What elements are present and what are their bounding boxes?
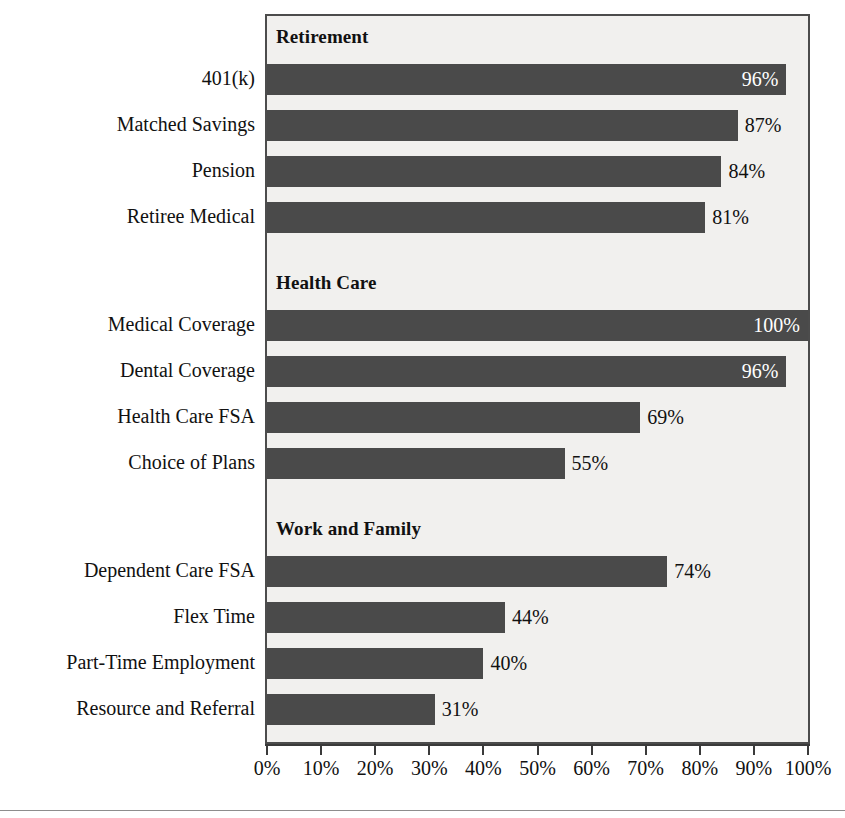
bar: 74% [267, 556, 667, 587]
bar: 55% [267, 448, 565, 479]
bar-value-label: 81% [712, 202, 749, 233]
bar-row: 74% [267, 556, 808, 587]
x-tick [807, 744, 809, 755]
bar-row: 31% [267, 694, 808, 725]
bar-row: 84% [267, 156, 808, 187]
x-tick [753, 744, 755, 755]
bar: 31% [267, 694, 435, 725]
bar: 96% [267, 356, 786, 387]
x-tick-label: 100% [768, 757, 845, 780]
bar-value-label: 96% [742, 356, 779, 387]
chart-figure: Retirement96%87%84%81%Health Care100%96%… [0, 0, 845, 818]
bar-row: 44% [267, 602, 808, 633]
x-tick [266, 744, 268, 755]
bar: 40% [267, 648, 483, 679]
x-tick [320, 744, 322, 755]
bar-row: 96% [267, 356, 808, 387]
x-tick [645, 744, 647, 755]
bar-row: 81% [267, 202, 808, 233]
group-header: Retirement [267, 20, 808, 54]
category-label: Flex Time [0, 601, 255, 632]
bar-value-label: 55% [572, 448, 609, 479]
bar: 69% [267, 402, 640, 433]
bar-value-label: 84% [728, 156, 765, 187]
bar-value-label: 69% [647, 402, 684, 433]
category-label: Choice of Plans [0, 447, 255, 478]
category-label: Pension [0, 155, 255, 186]
bar: 96% [267, 64, 786, 95]
bar-value-label: 74% [674, 556, 711, 587]
bar-row: 100% [267, 310, 808, 341]
bar: 87% [267, 110, 738, 141]
bar-row: 55% [267, 448, 808, 479]
bar-row: 96% [267, 64, 808, 95]
category-label: Resource and Referral [0, 693, 255, 724]
bar: 44% [267, 602, 505, 633]
bar-row: 87% [267, 110, 808, 141]
category-label: 401(k) [0, 63, 255, 94]
bar-value-label: 40% [490, 648, 527, 679]
category-label: Matched Savings [0, 109, 255, 140]
bar-row: 40% [267, 648, 808, 679]
plot-inner: Retirement96%87%84%81%Health Care100%96%… [267, 16, 808, 742]
category-label: Health Care FSA [0, 401, 255, 432]
x-tick [374, 744, 376, 755]
plot-area: Retirement96%87%84%81%Health Care100%96%… [265, 14, 810, 744]
bar-value-label: 31% [442, 694, 479, 725]
figure-title [0, 0, 845, 4]
footer-rule [0, 810, 845, 811]
category-label: Dental Coverage [0, 355, 255, 386]
bar: 81% [267, 202, 705, 233]
x-tick [482, 744, 484, 755]
x-tick [699, 744, 701, 755]
category-label: Medical Coverage [0, 309, 255, 340]
x-tick [537, 744, 539, 755]
x-tick [428, 744, 430, 755]
bar-value-label: 100% [753, 310, 800, 341]
bar-value-label: 44% [512, 602, 549, 633]
bar-value-label: 96% [742, 64, 779, 95]
group-header: Work and Family [267, 512, 808, 546]
bar: 100% [267, 310, 808, 341]
category-label: Part-Time Employment [0, 647, 255, 678]
x-tick [591, 744, 593, 755]
group-header: Health Care [267, 266, 808, 300]
category-label: Dependent Care FSA [0, 555, 255, 586]
bar-row: 69% [267, 402, 808, 433]
bar: 84% [267, 156, 721, 187]
category-label: Retiree Medical [0, 201, 255, 232]
bar-value-label: 87% [745, 110, 782, 141]
